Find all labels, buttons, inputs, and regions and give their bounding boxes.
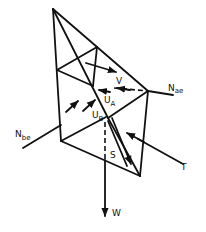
label-n-be: Nbe bbox=[15, 129, 30, 142]
label-n-ae: Nae bbox=[168, 83, 183, 95]
inner-triangle bbox=[57, 47, 97, 86]
label-u-b: UB bbox=[92, 110, 104, 123]
v-secondary-arrow bbox=[117, 88, 130, 90]
t-force-arrow bbox=[127, 133, 144, 142]
label-s: S bbox=[110, 150, 116, 160]
wedge-outline bbox=[53, 9, 148, 176]
label-u-a: UA bbox=[104, 95, 116, 108]
ub-force-arrow-1 bbox=[66, 101, 78, 112]
label-v: V bbox=[116, 76, 123, 86]
wedge-force-diagram: V Nae UA UB Nbe S T W bbox=[0, 0, 206, 232]
ua-force-arrow bbox=[99, 90, 110, 92]
label-t: T bbox=[180, 162, 187, 172]
t-force-line bbox=[138, 139, 183, 164]
label-w: W bbox=[112, 208, 121, 218]
v-force-arrow bbox=[86, 63, 116, 72]
